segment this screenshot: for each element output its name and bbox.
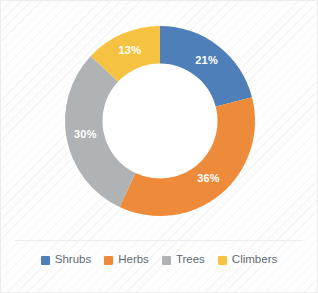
- legend-item-label: Shrubs: [55, 254, 91, 266]
- legend-swatch-icon: [218, 256, 227, 265]
- donut-hole: [103, 64, 218, 179]
- slice-data-label-trees: 30%: [74, 128, 97, 140]
- slice-data-label-shrubs: 21%: [195, 54, 218, 66]
- legend-swatch-icon: [162, 256, 171, 265]
- legend-item-shrubs[interactable]: Shrubs: [41, 254, 91, 266]
- donut-chart-svg: 21%36%30%13%: [62, 23, 258, 219]
- legend-item-trees[interactable]: Trees: [162, 254, 205, 266]
- legend-divider: [15, 240, 303, 241]
- chart-legend: ShrubsHerbsTreesClimbers: [1, 249, 317, 271]
- legend-swatch-icon: [104, 256, 113, 265]
- legend-swatch-icon: [41, 256, 50, 265]
- slice-data-label-climbers: 13%: [119, 44, 142, 56]
- legend-item-label: Climbers: [232, 254, 277, 266]
- chart-plot-area: 21%36%30%13%: [1, 7, 318, 235]
- legend-item-climbers[interactable]: Climbers: [218, 254, 277, 266]
- donut-chart-panel: 21%36%30%13% ShrubsHerbsTreesClimbers: [0, 0, 318, 293]
- donut-chart: 21%36%30%13%: [62, 23, 258, 219]
- legend-item-label: Trees: [176, 254, 205, 266]
- slice-data-label-herbs: 36%: [197, 172, 220, 184]
- legend-item-herbs[interactable]: Herbs: [104, 254, 149, 266]
- legend-item-label: Herbs: [118, 254, 149, 266]
